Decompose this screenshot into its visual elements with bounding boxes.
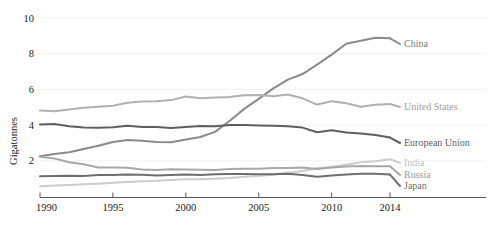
series-leader-china (390, 38, 400, 44)
x-tick-label-2000: 2000 (175, 202, 196, 213)
y-tick-label-2: 2 (29, 155, 34, 166)
chart-canvas: 246810 199019952000200520102014 ChinaUni… (0, 0, 491, 233)
series-leader-russia (390, 166, 400, 175)
y-tick-label-8: 8 (29, 48, 34, 59)
series-label-european-union: European Union (404, 137, 470, 148)
series-line-india (40, 159, 390, 186)
x-axis (40, 193, 486, 198)
x-axis-tick-labels: 199019952000200520102014 (36, 202, 401, 213)
series-labels: ChinaUnited StatesEuropean UnionIndiaRus… (390, 38, 470, 191)
series-label-india: India (404, 157, 425, 168)
x-tick-label-1995: 1995 (102, 202, 123, 213)
x-tick-label-2005: 2005 (248, 202, 269, 213)
y-axis-tick-labels: 246810 (24, 13, 35, 167)
y-axis-title: Gigatonnes (8, 117, 19, 165)
series-leader-european-union (390, 138, 400, 143)
x-tick-label-1990: 1990 (36, 202, 57, 213)
series-line-russia (40, 157, 390, 170)
y-tick-label-6: 6 (29, 84, 34, 95)
series-label-japan: Japan (404, 180, 427, 191)
series-line-united-states (40, 95, 390, 112)
series-label-russia: Russia (404, 169, 431, 180)
emissions-line-chart: 246810 199019952000200520102014 ChinaUni… (0, 0, 491, 233)
y-tick-label-4: 4 (29, 120, 35, 131)
x-tick-label-2014: 2014 (380, 202, 402, 213)
x-tick-label-2010: 2010 (321, 202, 342, 213)
y-tick-label-10: 10 (24, 13, 35, 24)
data-series (40, 38, 390, 186)
series-label-united-states: United States (404, 101, 458, 112)
series-leader-japan (390, 175, 400, 186)
series-label-china: China (404, 38, 428, 49)
series-line-japan (40, 174, 390, 177)
series-leader-united-states (390, 104, 400, 107)
